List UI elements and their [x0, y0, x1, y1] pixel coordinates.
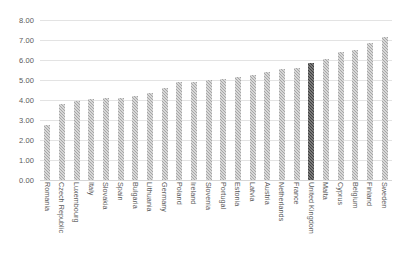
- y-axis: 0.001.002.003.004.005.006.007.008.00: [0, 0, 40, 200]
- bars: [40, 20, 392, 180]
- gridline: [40, 180, 392, 181]
- bar: [162, 88, 168, 180]
- y-tick-label: 7.00: [19, 36, 34, 45]
- bar: [264, 72, 270, 180]
- bar: [74, 101, 80, 180]
- x-tick-label: Portugal: [220, 182, 227, 209]
- bar: [323, 59, 329, 180]
- bar: [352, 50, 358, 180]
- bar: [176, 82, 182, 180]
- bar: [206, 80, 212, 180]
- y-tick-label: 1.00: [19, 156, 34, 165]
- bar: [382, 37, 388, 180]
- y-tick-label: 4.00: [19, 96, 34, 105]
- bar: [308, 63, 314, 180]
- bar: [132, 96, 138, 180]
- x-tick-label: Latvia: [249, 182, 256, 201]
- x-tick-label: Romania: [44, 182, 51, 211]
- x-tick-label: Bulgaria: [132, 182, 139, 209]
- x-tick-label: Poland: [176, 182, 183, 205]
- x-tick-label: Germany: [161, 182, 168, 212]
- x-tick-label: Austria: [264, 182, 271, 205]
- plot-area: [40, 20, 392, 180]
- x-tick-label: Finland: [366, 182, 373, 206]
- bar-chart: 0.001.002.003.004.005.006.007.008.00 Rom…: [0, 0, 398, 266]
- bar: [294, 68, 300, 180]
- x-tick-label: Spain: [117, 182, 124, 201]
- x-tick-label: Luxembourg: [73, 182, 80, 222]
- x-tick-label: France: [293, 182, 300, 205]
- x-tick-label: Slovakia: [102, 182, 109, 210]
- y-tick-label: 0.00: [19, 176, 34, 185]
- bar: [88, 99, 94, 180]
- bar: [191, 82, 197, 180]
- y-tick-label: 2.00: [19, 136, 34, 145]
- x-tick-label: Belgium: [352, 182, 359, 208]
- x-tick-label: Sweden: [381, 182, 388, 208]
- bar: [338, 52, 344, 180]
- bar: [250, 75, 256, 180]
- y-tick-label: 6.00: [19, 56, 34, 65]
- bar: [59, 104, 65, 180]
- x-tick-label: Netherlands: [278, 182, 285, 221]
- y-tick-label: 8.00: [19, 16, 34, 25]
- y-tick-label: 3.00: [19, 116, 34, 125]
- x-axis: RomaniaCzech RepublicLuxembourgItalySlov…: [40, 182, 392, 266]
- y-tick-label: 5.00: [19, 76, 34, 85]
- bar: [118, 98, 124, 180]
- bar: [147, 93, 153, 180]
- x-tick-label: Slovenia: [205, 182, 212, 210]
- x-tick-label: United Kingdom: [308, 182, 315, 234]
- bar: [103, 98, 109, 180]
- x-tick-label: Lithuania: [146, 182, 153, 212]
- x-tick-label: Czech Republic: [58, 182, 65, 233]
- x-tick-label: Estonia: [234, 182, 241, 206]
- bar: [279, 69, 285, 180]
- x-tick-label: Malta: [322, 182, 329, 200]
- bar: [44, 125, 50, 180]
- x-tick-label: Ireland: [190, 182, 197, 204]
- bar: [367, 43, 373, 180]
- bar: [235, 77, 241, 180]
- bar: [220, 79, 226, 180]
- x-tick-label: Cyprus: [337, 182, 344, 205]
- x-tick-label: Italy: [88, 182, 95, 195]
